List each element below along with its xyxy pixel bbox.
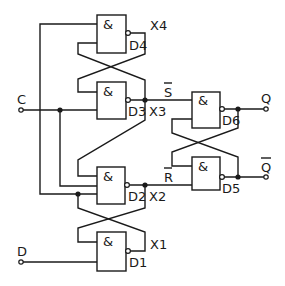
input-d: D — [17, 244, 27, 264]
junction-x3 — [142, 97, 147, 102]
input-c-label: C — [17, 92, 26, 107]
gate-d1-inverter-bubble — [126, 249, 131, 254]
gate-d5-label: D5 — [222, 181, 240, 196]
output-q-terminal — [264, 107, 268, 111]
gate-d4-label: D4 — [129, 38, 147, 53]
gate-d6-label: D6 — [222, 113, 240, 128]
gate-d4-symbol: & — [103, 17, 113, 32]
input-d-label: D — [17, 244, 27, 259]
junction-q — [235, 106, 240, 111]
signal-r-bar: R — [164, 168, 173, 185]
gate-d1-symbol: & — [103, 234, 113, 249]
wires — [23, 24, 264, 262]
rs-flip-flop-diagram: & D4 & D3 & D6 & D5 & D2 & D1 X4 X3 X2 X… — [0, 0, 285, 286]
gate-d2-label: D2 — [128, 189, 146, 204]
signal-r-bar-label: R — [164, 170, 173, 185]
gate-d1-label: D1 — [129, 255, 147, 270]
gate-d5-inverter-bubble — [220, 175, 225, 180]
gate-d2-inverter-bubble — [125, 183, 130, 188]
junction-x2 — [142, 182, 147, 187]
junction-qbar — [235, 174, 240, 179]
output-qbar-terminal — [264, 175, 268, 179]
output-q-label: Q — [261, 91, 271, 106]
gate-d3-label: D3 — [128, 104, 146, 119]
input-c: C — [17, 92, 26, 112]
gate-d4-inverter-bubble — [126, 31, 131, 36]
output-qbar: Q — [261, 158, 271, 179]
node-x1-label: X1 — [150, 237, 167, 252]
node-x4-label: X4 — [150, 18, 167, 33]
gate-d6-symbol: & — [198, 93, 208, 108]
node-x2-label: X2 — [149, 189, 166, 204]
junction-d2-bottom — [75, 191, 80, 196]
junction-c — [57, 107, 62, 112]
node-x3-label: X3 — [149, 104, 166, 119]
gate-d2-symbol: & — [103, 169, 113, 184]
input-d-terminal — [19, 260, 23, 264]
gate-d6: & D6 — [192, 92, 240, 128]
signal-s-bar: S — [164, 83, 172, 100]
output-qbar-label: Q — [261, 160, 271, 175]
gate-d3-inverter-bubble — [126, 98, 131, 103]
gate-d3-symbol: & — [103, 84, 113, 99]
output-q: Q — [261, 91, 271, 111]
gate-d5-symbol: & — [198, 159, 208, 174]
input-c-terminal — [19, 108, 23, 112]
wire-clock-bus — [40, 24, 97, 194]
signal-s-bar-label: S — [164, 85, 172, 100]
gate-d4: & D4 — [97, 15, 147, 53]
gate-d6-inverter-bubble — [220, 107, 225, 112]
